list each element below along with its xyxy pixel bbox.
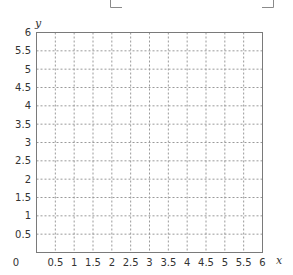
x-tick-label: 3 [146, 257, 152, 268]
y-tick-label: 1 [25, 210, 31, 221]
x-tick-label: 0 [13, 257, 19, 268]
y-tick-labels: 0.511.522.533.544.555.56 [15, 27, 31, 240]
y-tick-label: 6 [25, 27, 31, 38]
x-tick-labels: 00.511.522.533.544.555.56 [13, 257, 266, 268]
x-tick-label: 2.5 [123, 257, 139, 268]
x-tick-label: 1.5 [85, 257, 101, 268]
bracket-left-corner [111, 0, 123, 8]
x-tick-label: 5 [222, 257, 228, 268]
y-tick-label: 2.5 [15, 155, 31, 166]
x-tick-label: 4.5 [198, 257, 214, 268]
x-axis-label: x [276, 254, 283, 267]
x-tick-label: 1 [71, 257, 77, 268]
y-tick-label: 5.5 [15, 45, 31, 56]
grid-lines [37, 33, 263, 253]
y-tick-label: 2 [25, 174, 31, 185]
y-tick-label: 3 [25, 137, 31, 148]
y-tick-label: 0.5 [15, 229, 31, 240]
x-tick-label: 4 [184, 257, 190, 268]
x-tick-label: 5.5 [236, 257, 252, 268]
y-tick-label: 4 [25, 100, 31, 111]
x-tick-label: 3.5 [160, 257, 176, 268]
y-tick-label: 3.5 [15, 119, 31, 130]
bracket-right-corner [262, 0, 274, 8]
x-tick-label: 2 [109, 257, 115, 268]
y-tick-label: 1.5 [15, 192, 31, 203]
x-tick-label: 6 [259, 257, 265, 268]
y-tick-label: 4.5 [15, 82, 31, 93]
x-tick-label: 0.5 [47, 257, 63, 268]
y-tick-label: 5 [25, 64, 31, 75]
coordinate-grid-chart: 00.511.522.533.544.555.56 0.511.522.533.… [0, 0, 293, 275]
y-axis-label: y [34, 17, 42, 30]
top-bracket-frame [111, 0, 274, 8]
